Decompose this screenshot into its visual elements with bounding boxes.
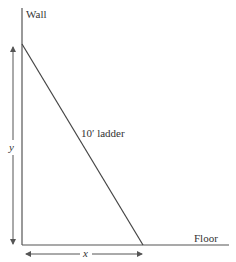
ladder-length-label: 10′ ladder (81, 128, 125, 139)
ladder-line (22, 44, 143, 245)
wall-label: Wall (26, 9, 47, 20)
x-variable-label: x (82, 248, 89, 259)
y-variable-label: y (9, 142, 14, 153)
floor-label: Floor (194, 233, 218, 244)
